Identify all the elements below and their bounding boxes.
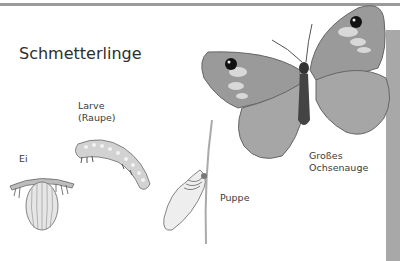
pupa-label: Puppe [220, 192, 250, 204]
egg-illustration [6, 168, 76, 234]
egg-label: Ei [19, 153, 28, 165]
larva-label: Larve (Raupe) [78, 100, 116, 124]
caterpillar-illustration [72, 134, 156, 196]
page-title: Schmetterlinge [19, 44, 142, 64]
butterfly-illustration [198, 0, 398, 165]
